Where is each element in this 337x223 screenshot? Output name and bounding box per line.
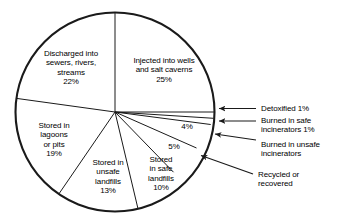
callout-label-burned-in-unsafe-incinerators: Burned in unsafe incinerators bbox=[261, 140, 337, 159]
slice-label-stored-in-lagoons-or-pits: Stored in lagoons or pits 19% bbox=[23, 121, 85, 158]
pie-chart: Discharged into sewers, rivers, streams … bbox=[0, 0, 337, 223]
slice-label-injected-into-wells: Injected into wells and salt caverns 25% bbox=[118, 56, 210, 84]
callout-label-recycled-or-recovered: Recycled or recovered bbox=[258, 170, 334, 189]
callout-label-detoxified: Detoxified 1% bbox=[261, 104, 337, 113]
slice-pct-burned-in-unsafe-incinerators: 4% bbox=[176, 122, 198, 131]
slice-pct-recycled-or-recovered: 5% bbox=[163, 142, 185, 151]
callout-label-burned-in-safe-incinerators: Burned in safe incinerators 1% bbox=[261, 116, 337, 135]
slice-label-discharged-into-sewers: Discharged into sewers, rivers, streams … bbox=[28, 49, 114, 86]
leader-burned-unsafe bbox=[215, 134, 256, 140]
slice-label-stored-in-unsafe-landfills: Stored in unsafe landfills 13% bbox=[79, 158, 137, 195]
leader-recycled bbox=[201, 156, 253, 175]
slice-label-stored-in-safe-landfills: Stored in safe landfills 10% bbox=[136, 155, 186, 192]
